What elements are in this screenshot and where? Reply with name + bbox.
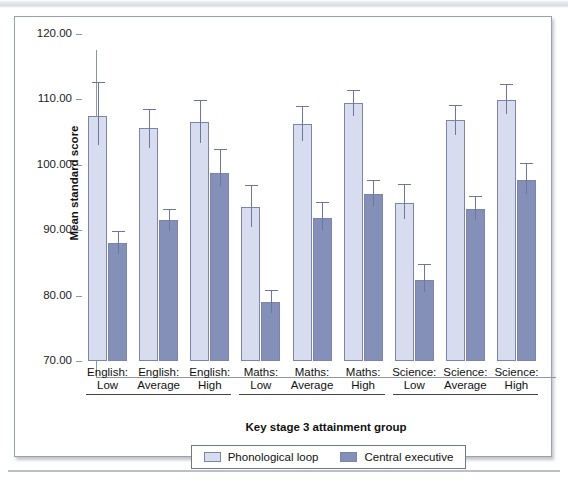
x-axis-label-line-1: Science: [487,366,546,379]
error-bar-cap-upper [214,149,227,150]
error-bar-stem [271,290,272,313]
error-bar-stem [169,209,170,232]
legend-item-phonological-loop: Phonological loop [204,451,319,463]
error-bar-stem [526,163,527,194]
chart-figure: Mean standard score 120.00110.00100.0090… [14,16,552,457]
x-axis-title: Key stage 3 attainment group [96,421,556,433]
bar-central-executive [466,209,485,361]
error-bar-cap-upper [316,202,329,203]
bar-phonological-loop [446,120,465,361]
error-bar-stem [353,90,354,116]
error-bar-cap-upper [367,180,380,181]
legend-swatch-icon [204,452,221,462]
error-bar-stem [424,264,425,293]
y-axis-tick-label: 120.00 [12,28,72,40]
error-bar-cap-upper [398,184,411,185]
x-axis-group-underline [393,394,538,395]
bar-phonological-loop [241,207,260,361]
scan-top-band [0,0,568,8]
error-bar-stem [251,185,252,227]
error-bar-cap-upper [296,106,309,107]
bar-central-executive [108,243,127,361]
bar-central-executive [364,194,383,361]
error-bar-stem [98,82,99,144]
y-axis-tick-label: 110.00 [12,93,72,105]
bar-phonological-loop [497,100,516,361]
plot-area [82,34,542,361]
error-bar-stem [404,184,405,219]
error-bar-cap-upper [92,82,105,83]
error-bar-cap-upper [143,109,156,110]
error-bar-cap-upper [500,84,513,85]
bar-central-executive [210,173,229,361]
x-axis-group-underline [239,394,384,395]
y-axis-tick [76,361,82,362]
error-bar-stem [118,231,119,255]
bar-central-executive [517,180,536,361]
error-bar-stem [220,149,221,186]
bar-central-executive [313,218,332,361]
legend-label: Central executive [364,451,453,463]
legend-label: Phonological loop [228,451,319,463]
error-bar-cap-upper [347,90,360,91]
error-bar-cap-upper [245,185,258,186]
bar-phonological-loop [293,124,312,361]
page-divider-rule [8,470,560,472]
error-bar-stem [149,109,150,148]
x-axis-group-underline [86,394,231,395]
error-bar-stem [475,196,476,221]
bar-phonological-loop [344,103,363,361]
x-axis-label-line-2: High [487,379,546,392]
bar-phonological-loop [88,116,107,361]
y-axis-tick-label: 90.00 [12,224,72,236]
error-bar-cap-upper [265,290,278,291]
legend-item-central-executive: Central executive [340,451,453,463]
y-axis-title: Mean standard score [68,93,80,273]
error-bar-cap-upper [449,105,462,106]
error-bar-stem [455,105,456,135]
error-bar-stem [200,100,201,143]
error-bar-stem [322,202,323,229]
bar-phonological-loop [139,128,158,361]
error-bar-cap-upper [418,264,431,265]
error-bar-cap-upper [194,100,207,101]
error-bar-cap-upper [520,163,533,164]
error-bar-cap-upper [112,231,125,232]
bar-phonological-loop [190,122,209,361]
legend-swatch-icon [340,452,357,462]
y-axis-tick-label: 70.00 [12,355,72,367]
error-bar-stem [373,180,374,206]
x-axis-label: Science:High [487,366,546,392]
error-bar-stem [302,106,303,141]
chart-legend: Phonological loop Central executive [191,445,466,469]
error-bar-cap-upper [163,209,176,210]
y-axis-tick-label: 100.00 [12,159,72,171]
bar-phonological-loop [395,203,414,361]
y-axis-tick-label: 80.00 [12,290,72,302]
bar-central-executive [159,220,178,361]
error-bar-stem [506,84,507,115]
error-bar-cap-upper [469,196,482,197]
